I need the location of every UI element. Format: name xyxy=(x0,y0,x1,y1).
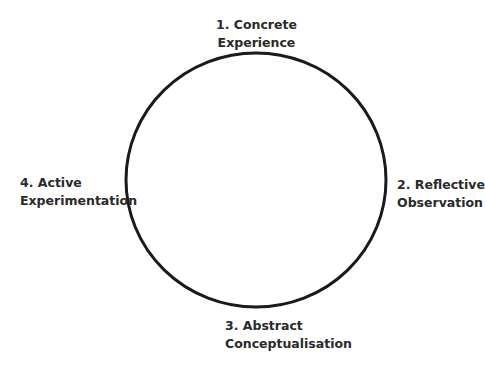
stage-1-line2: Experience xyxy=(216,34,297,52)
stage-abstract-conceptualisation: 3. Abstract Conceptualisation xyxy=(225,317,352,353)
stage-3-line1: 3. Abstract xyxy=(225,317,352,335)
cycle-ring xyxy=(126,53,386,307)
stage-active-experimentation: 4. Active Experimentation xyxy=(20,174,137,210)
stage-reflective-observation: 2. Reflective Observation xyxy=(397,176,485,212)
stage-3-line2: Conceptualisation xyxy=(225,335,352,353)
stage-4-line1: 4. Active xyxy=(20,174,137,192)
stage-1-line1: 1. Concrete xyxy=(216,16,297,34)
stage-2-line1: 2. Reflective xyxy=(397,176,485,194)
stage-4-line2: Experimentation xyxy=(20,192,137,210)
stage-concrete-experience: 1. Concrete Experience xyxy=(216,16,297,52)
stage-2-line2: Observation xyxy=(397,194,485,212)
